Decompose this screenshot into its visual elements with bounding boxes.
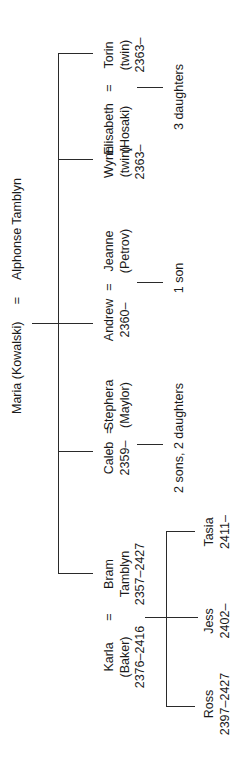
- person-bram: Bram Tamblyn 2357–2427: [102, 543, 149, 606]
- person-caleb: Caleb 2359–: [102, 441, 133, 476]
- person-karla: Karla (Baker) 2376–2416: [102, 626, 149, 689]
- dates: 2357–2427: [133, 543, 149, 606]
- person-elisabeth: Elisabeth (Hosaki): [102, 103, 133, 154]
- name: Andrew: [102, 299, 118, 341]
- andrew-descent-line: [137, 282, 163, 283]
- person-stephera: Stephera (Maylor): [102, 380, 133, 431]
- branch-tasia: [166, 531, 195, 532]
- branch-torin: [58, 53, 93, 54]
- maiden-name: (Hosaki): [118, 103, 134, 154]
- caleb-descent-line: [137, 444, 163, 445]
- root-marriage-symbol: =: [10, 297, 24, 304]
- family-tree-diagram: Maria (Kowalski) = Alphonse Tamblyn Bram…: [0, 0, 249, 774]
- name: Tasia: [202, 515, 218, 549]
- maiden-name: (Petrov): [118, 229, 134, 273]
- person-andrew: Andrew 2360–: [102, 299, 133, 341]
- torin-offspring-note: 3 daughters: [172, 64, 188, 130]
- dates: 2359–: [118, 441, 134, 476]
- name: Stephera: [102, 380, 118, 431]
- branch-caleb: [58, 451, 93, 452]
- marriage-symbol-bram: =: [102, 613, 118, 620]
- torin-descent-line: [137, 87, 163, 88]
- name: Karla: [102, 626, 118, 689]
- name: Caleb: [102, 441, 118, 476]
- andrew-offspring-note: 1 son: [172, 263, 188, 294]
- surname: Tamblyn: [118, 543, 134, 606]
- person-tasia: Tasia 2411–: [202, 515, 233, 549]
- name: Bram: [102, 543, 118, 606]
- person-torin: Torin (twin) 2363–: [102, 38, 149, 73]
- root-couple: Maria (Kowalski) = Alphonse Tamblyn: [10, 178, 24, 414]
- dates: 2363–: [133, 145, 149, 180]
- dates: 2376–2416: [133, 626, 149, 689]
- dates: 2402–: [218, 604, 234, 639]
- name: Jess: [202, 604, 218, 639]
- root-descent-line: [32, 323, 93, 324]
- root-spouse-b: Alphonse Tamblyn: [10, 178, 24, 280]
- sibling-bar: [58, 53, 59, 574]
- branch-wynn: [58, 159, 93, 160]
- marriage-symbol-torin: =: [102, 84, 118, 91]
- branch-bram: [58, 573, 93, 574]
- name: Jeanne: [102, 229, 118, 273]
- bram-children-bar: [166, 531, 167, 707]
- marriage-symbol-andrew: =: [102, 283, 118, 290]
- person-jeanne: Jeanne (Petrov): [102, 229, 133, 273]
- root-spouse-a: Maria (Kowalski): [10, 322, 24, 414]
- bram-descent-line: [145, 617, 198, 618]
- maiden-name: (Baker): [118, 626, 134, 689]
- person-jess: Jess 2402–: [202, 604, 233, 639]
- dates: 2411–: [218, 515, 234, 549]
- maiden-name: (Maylor): [118, 380, 134, 431]
- dates: 2397–2427: [218, 673, 234, 736]
- dates: 2363–: [133, 38, 149, 73]
- twin-note: (twin): [118, 38, 134, 73]
- branch-ross: [166, 706, 195, 707]
- name: Torin: [102, 38, 118, 73]
- caleb-offspring-note: 2 sons, 2 daughters: [172, 383, 188, 493]
- name: Ross: [202, 673, 218, 736]
- person-ross: Ross 2397–2427: [202, 673, 233, 736]
- name: Elisabeth: [102, 103, 118, 154]
- dates: 2360–: [118, 299, 134, 341]
